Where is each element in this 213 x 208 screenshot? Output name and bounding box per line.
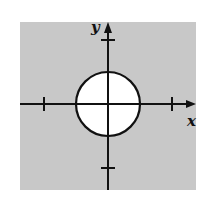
region-graph: x y [0, 0, 213, 208]
x-axis-label: x [186, 112, 197, 130]
y-axis-label: y [90, 18, 101, 36]
